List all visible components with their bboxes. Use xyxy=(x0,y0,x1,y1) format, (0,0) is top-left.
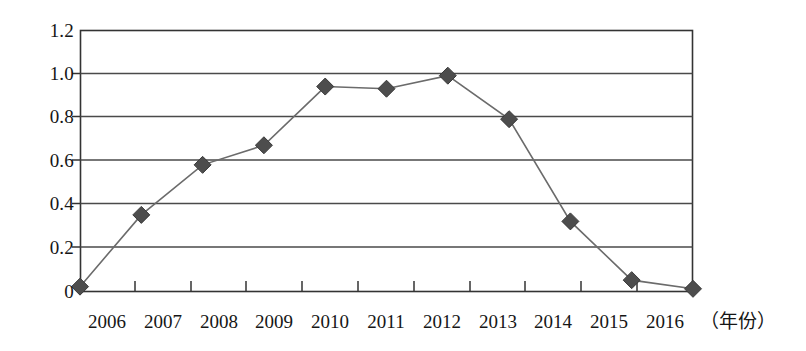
x-tick-label-2013: 2013 xyxy=(479,312,517,331)
line-chart: 1.2 1.0 0.8 0.6 0.4 0.2 0 2006 2007 2008… xyxy=(0,0,806,351)
x-tick-label-2015: 2015 xyxy=(590,312,628,331)
x-axis-title: （年份） xyxy=(700,312,776,331)
x-tick-label-2008: 2008 xyxy=(200,312,238,331)
x-tick-label-2014: 2014 xyxy=(534,312,572,331)
x-tick-label-2010: 2010 xyxy=(311,312,349,331)
x-tick-label-2009: 2009 xyxy=(255,312,293,331)
x-tick-label-2012: 2012 xyxy=(423,312,461,331)
x-tick-label-2011: 2011 xyxy=(367,312,404,331)
x-tick-label-2016: 2016 xyxy=(646,312,684,331)
x-tick-label-2007: 2007 xyxy=(144,312,182,331)
x-tick-label-2006: 2006 xyxy=(88,312,126,331)
x-axis-label-group: 2006 2007 2008 2009 2010 2011 2012 2013 … xyxy=(0,0,806,351)
